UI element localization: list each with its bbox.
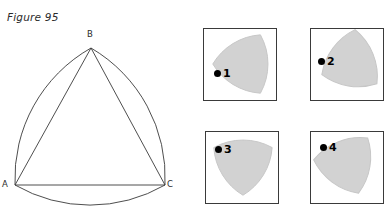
marker-dot-icon [214,70,221,77]
reuleaux-construction-svg [0,22,194,219]
marker-dot-icon [320,144,327,151]
marker-dot-icon [318,58,325,65]
vertex-label-b: B [87,30,93,39]
panel-4: 4 [310,131,384,204]
reuleaux-shape-3 [206,132,278,203]
marker-dot-icon [215,146,222,153]
vertex-label-a: A [2,180,8,189]
panel-1-number: 1 [223,68,231,79]
panel-grid: 1 2 3 4 [200,22,388,212]
panel-3-marker: 3 [215,144,232,155]
panel-1-marker: 1 [214,68,231,79]
chord-ab [15,48,91,185]
panel-4-number: 4 [329,142,337,153]
panel-2-number: 2 [327,56,335,67]
main-figure: A B C [0,22,194,219]
figure-page: { "caption": "Figure 95", "main_figure":… [0,0,388,219]
arc-c-to-a [15,185,165,205]
reuleaux-shape-1 [204,29,276,100]
panel-3: 3 [205,131,279,204]
panel-3-number: 3 [224,144,232,155]
panel-2-marker: 2 [318,56,335,67]
panel-2: 2 [310,28,384,101]
panel-1: 1 [203,28,277,101]
panel-4-marker: 4 [320,142,337,153]
reuleaux-path [213,35,268,93]
vertex-label-c: C [167,180,173,189]
chord-bc [91,48,165,185]
